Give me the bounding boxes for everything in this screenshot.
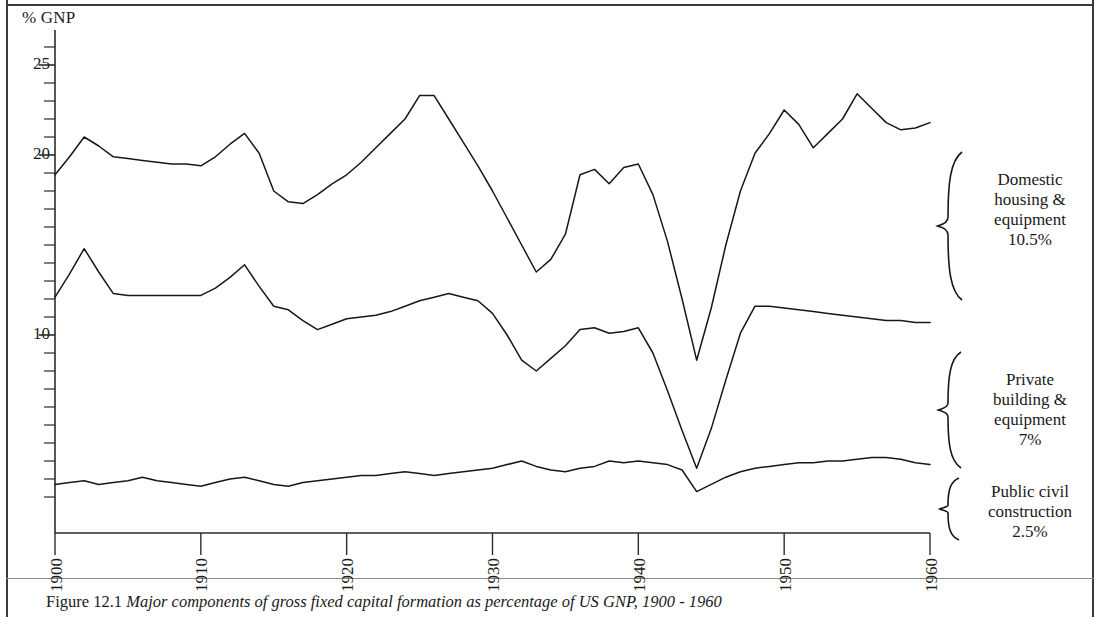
series-line-0: [55, 94, 930, 360]
figure-page: % GNP 25 20 10 1900 1910 1920 1930 1940 …: [0, 0, 1100, 617]
chart-plot-area: [0, 0, 1100, 617]
series-line-2: [55, 457, 930, 491]
axis-layer: [39, 30, 930, 555]
legend-brace-layer: [938, 152, 963, 540]
brace-domestic-housing-equipment: [938, 152, 963, 300]
series-layer: [55, 94, 930, 492]
brace-private-building-equipment: [938, 352, 961, 468]
brace-public-civil-construction: [940, 478, 959, 540]
series-line-1: [55, 249, 930, 469]
